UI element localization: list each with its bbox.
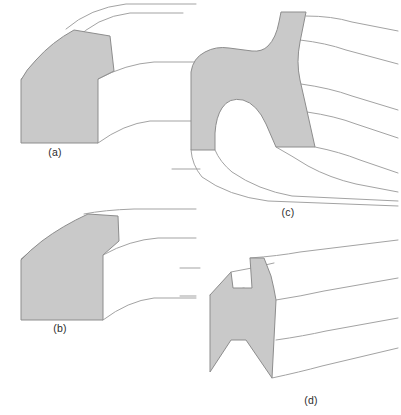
panel-label-d: (d) [304, 394, 317, 406]
figure-container: (a) (b) [0, 0, 401, 415]
figure-canvas: (a) (b) [0, 0, 401, 415]
panel-label-b: (b) [53, 322, 66, 334]
panel-label-a: (a) [48, 146, 61, 158]
panel-label-c: (c) [282, 206, 295, 218]
